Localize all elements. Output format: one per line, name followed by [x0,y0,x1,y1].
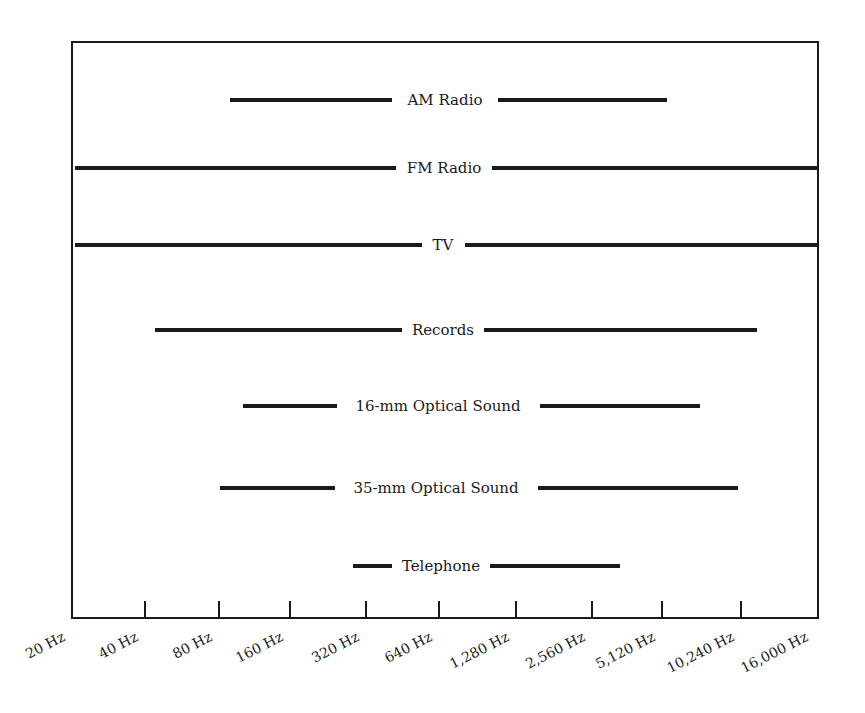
range-row: Telephone [353,557,620,575]
x-tick-label: 320 Hz [309,628,361,665]
range-row: FM Radio [75,159,818,177]
frequency-range-chart: AM RadioFM RadioTVRecords16-mm Optical S… [0,0,865,713]
x-tick-label: 5,120 Hz [593,628,657,671]
x-tick-label: 10,240 Hz [664,628,736,675]
range-bars: AM RadioFM RadioTVRecords16-mm Optical S… [75,91,818,575]
range-label: 35-mm Optical Sound [353,479,519,497]
x-tick-label: 16,000 Hz [738,628,810,675]
range-label: Telephone [402,557,480,575]
range-row: TV [75,236,818,254]
x-tick-label: 160 Hz [233,628,285,665]
range-label: AM Radio [407,91,483,109]
range-row: 35-mm Optical Sound [220,479,738,497]
x-tick-label: 20 Hz [23,628,68,661]
x-tick-label: 40 Hz [96,628,141,661]
x-tick-label: 80 Hz [170,628,215,661]
range-row: Records [155,321,757,339]
x-tick-label: 2,560 Hz [523,628,587,671]
range-label: TV [433,236,455,254]
range-label: 16-mm Optical Sound [355,397,521,415]
x-axis: 20 Hz40 Hz80 Hz160 Hz320 Hz640 Hz1,280 H… [23,601,811,676]
range-row: 16-mm Optical Sound [243,397,700,415]
range-label: Records [412,321,474,339]
range-row: AM Radio [230,91,667,109]
range-label: FM Radio [407,159,482,177]
x-tick-label: 1,280 Hz [447,628,511,671]
x-tick-label: 640 Hz [382,628,434,665]
